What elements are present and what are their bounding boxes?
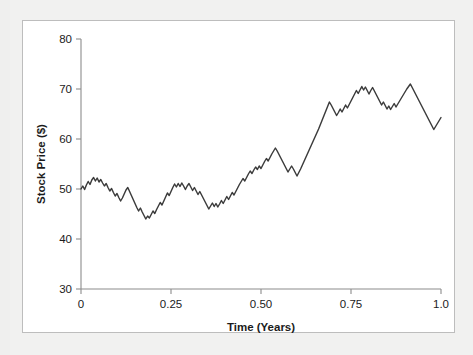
x-tick-label: 1.0 [433,298,449,310]
y-tick-label: 40 [59,233,72,245]
y-tick-label: 70 [59,83,72,95]
x-tick-label: 0.50 [250,298,272,310]
y-tick-marks [76,39,81,289]
x-tick-label: 0.25 [160,298,182,310]
x-tick-label: 0 [78,298,84,310]
x-axis: 00.250.500.751.0 [78,289,449,310]
y-tick-label: 30 [59,283,72,295]
x-tick-marks [81,289,441,294]
stock-price-series-line [81,84,441,219]
plot-series-group [81,84,441,219]
y-tick-labels: 304050607080 [59,33,72,295]
stock-price-line-chart: 304050607080 00.250.500.751.0 Time (Year… [23,21,456,334]
y-tick-label: 50 [59,183,72,195]
y-axis: 304050607080 [59,33,81,295]
x-tick-label: 0.75 [340,298,362,310]
y-tick-label: 60 [59,133,72,145]
page-edge-artifact [0,0,10,355]
x-tick-labels: 00.250.500.751.0 [78,298,449,310]
y-tick-label: 80 [59,33,72,45]
x-axis-title: Time (Years) [227,321,295,333]
chart-svg: 304050607080 00.250.500.751.0 Time (Year… [23,21,456,334]
figure-panel: 304050607080 00.250.500.751.0 Time (Year… [22,20,455,333]
y-axis-title: Stock Price ($) [35,124,47,204]
